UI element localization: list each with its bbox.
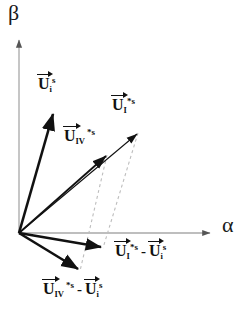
term-sub: i: [50, 84, 52, 94]
term-base: U: [149, 242, 161, 259]
minus-operator: -: [138, 244, 149, 259]
dashed-line-u-I: [103, 133, 138, 248]
term-sub: i: [97, 289, 99, 299]
term-sup: s: [52, 75, 56, 85]
label-u-i-s: Uis: [38, 76, 55, 94]
alpha-axis-label: α: [222, 214, 234, 236]
term-diff-IV-right: Uis: [85, 281, 102, 299]
term-sub: IV: [55, 289, 64, 299]
term-u-IV-star-s: UIV*s: [64, 128, 95, 146]
term-diff-IV-left: UIV*s: [43, 281, 74, 299]
caption-strip: [0, 311, 252, 323]
vector-u-IV-star-s: [19, 156, 106, 233]
term-sup: s: [99, 280, 103, 290]
vector-diagram-figure: β α Uis UI*s UIV*s: [0, 0, 252, 323]
term-u-i-s: Uis: [38, 76, 55, 94]
term-base: U: [38, 75, 50, 92]
term-base: U: [43, 280, 55, 297]
term-sup: *s: [66, 280, 74, 290]
term-sup: *s: [87, 127, 95, 137]
term-sup: *s: [130, 242, 138, 252]
minus-operator: -: [74, 282, 85, 297]
label-u-IV-star-s: UIV*s: [64, 128, 95, 146]
term-sup: s: [163, 242, 167, 252]
term-diff-I-left: UI*s: [115, 243, 138, 261]
vector-u-i-s: [19, 114, 53, 233]
term-base: U: [64, 127, 76, 144]
term-sub: IV: [76, 136, 85, 146]
plot-canvas: [0, 0, 252, 323]
dashed-line-u-IV: [80, 155, 107, 271]
term-base: U: [85, 280, 97, 297]
term-u-I-star-s: UI*s: [112, 97, 135, 115]
term-sub: I: [127, 251, 130, 261]
term-base: U: [115, 242, 127, 259]
term-sub: i: [160, 251, 162, 261]
term-base: U: [112, 96, 124, 113]
term-diff-I-right: Uis: [149, 243, 166, 261]
term-sub: I: [124, 105, 127, 115]
label-diff-u-I: UI*s - Uis: [115, 243, 166, 261]
term-sup: *s: [127, 96, 135, 106]
label-diff-u-IV: UIV*s - Uis: [43, 281, 102, 299]
beta-axis-label: β: [8, 2, 19, 24]
label-u-I-star-s: UI*s: [112, 97, 135, 115]
